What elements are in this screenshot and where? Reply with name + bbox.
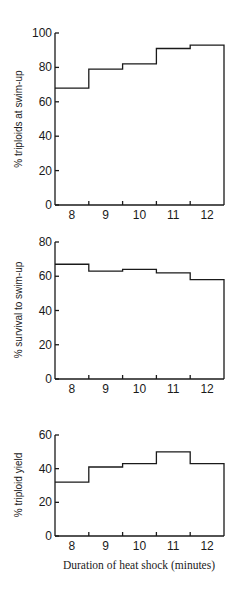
y-tick-label: 20 xyxy=(39,495,53,509)
x-tick-label: 9 xyxy=(102,382,109,396)
chart-panel-survival-to-swim-up: 02040608089101112% survival to swim-up xyxy=(13,235,224,396)
x-tick-label: 12 xyxy=(200,208,214,222)
y-tick-label: 60 xyxy=(39,428,53,442)
y-axis-label: % triploid yield xyxy=(13,453,24,517)
x-tick-label: 11 xyxy=(167,382,180,396)
y-tick-label: 20 xyxy=(39,164,53,178)
y-tick-label: 0 xyxy=(45,198,52,212)
x-axis-label: Duration of heat shock (minutes) xyxy=(63,559,215,572)
y-tick-label: 0 xyxy=(45,529,52,543)
y-tick-label: 0 xyxy=(45,372,52,386)
y-tick-label: 40 xyxy=(39,462,53,476)
y-tick-label: 100 xyxy=(32,26,52,40)
x-tick-label: 9 xyxy=(102,539,109,553)
x-tick-label: 12 xyxy=(200,539,214,553)
y-axis-label: % survival to swim-up xyxy=(13,261,24,358)
step-histogram-series xyxy=(55,264,224,379)
y-tick-label: 20 xyxy=(39,338,53,352)
y-tick-label: 80 xyxy=(39,60,53,74)
x-tick-label: 12 xyxy=(200,382,214,396)
x-tick-label: 11 xyxy=(167,539,180,553)
x-tick-label: 9 xyxy=(102,208,109,222)
figure: 02040608010089101112% triploids at swim-… xyxy=(0,0,240,598)
y-tick-label: 80 xyxy=(39,235,53,249)
y-axis-label: % triploids at swim-up xyxy=(13,70,24,168)
x-tick-label: 10 xyxy=(133,539,147,553)
y-tick-label: 60 xyxy=(39,95,53,109)
x-tick-label: 8 xyxy=(69,382,76,396)
chart-panel-triploids-at-swim-up: 02040608010089101112% triploids at swim-… xyxy=(13,26,224,222)
chart-panel-triploid-yield: 020406089101112% triploid yield xyxy=(13,428,224,553)
y-tick-label: 40 xyxy=(39,129,53,143)
x-tick-label: 11 xyxy=(167,208,180,222)
x-tick-label: 8 xyxy=(69,208,76,222)
y-tick-label: 40 xyxy=(39,304,53,318)
step-histogram-series xyxy=(55,45,224,205)
x-tick-label: 8 xyxy=(69,539,76,553)
step-histogram-series xyxy=(55,452,224,536)
x-tick-label: 10 xyxy=(133,382,147,396)
x-tick-label: 10 xyxy=(133,208,147,222)
y-tick-label: 60 xyxy=(39,269,53,283)
